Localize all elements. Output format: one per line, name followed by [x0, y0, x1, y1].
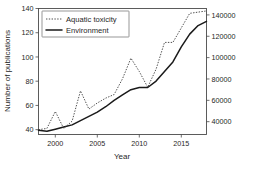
- right-tick-label-40000: 40000: [212, 117, 232, 126]
- x-tick-label-2015: 2015: [173, 139, 189, 148]
- y-axis-title: Number of publications: [3, 30, 12, 112]
- left-tick-label-100: 100: [22, 53, 34, 62]
- right-tick-label-120000: 120000: [212, 32, 236, 41]
- x-axis-title: Year: [114, 152, 131, 161]
- left-tick-label-40: 40: [26, 125, 34, 134]
- legend-label-environment: Environment: [66, 26, 110, 35]
- legend-label-aquatic-toxicity: Aquatic toxicity: [66, 15, 117, 24]
- left-tick-label-120: 120: [22, 28, 34, 37]
- right-tick-label-100000: 100000: [212, 53, 236, 62]
- left-axis-tick-labels: 406080100120140: [22, 4, 34, 134]
- right-tick-label-140000: 140000: [212, 11, 236, 20]
- chart-legend: Aquatic toxicity Environment: [42, 11, 129, 37]
- x-tick-label-2010: 2010: [131, 139, 147, 148]
- left-tick-label-140: 140: [22, 4, 34, 13]
- line-chart: 406080100120140 400006000080000100000120…: [0, 0, 254, 171]
- left-tick-label-60: 60: [26, 101, 34, 110]
- chart-figure: 406080100120140 400006000080000100000120…: [0, 0, 254, 171]
- left-tick-label-80: 80: [26, 77, 34, 86]
- series-line-environment: [39, 21, 207, 131]
- x-axis-tick-labels: 2000200520102015: [47, 139, 189, 148]
- right-tick-label-80000: 80000: [212, 75, 232, 84]
- x-tick-label-2000: 2000: [47, 139, 63, 148]
- x-tick-label-2005: 2005: [89, 139, 105, 148]
- right-tick-label-60000: 60000: [212, 96, 232, 105]
- right-axis-tick-labels: 400006000080000100000120000140000: [212, 11, 236, 127]
